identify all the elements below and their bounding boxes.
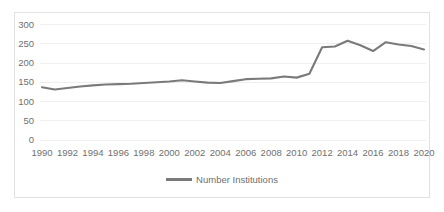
- y-axis-tick-label: 300: [8, 20, 34, 30]
- x-axis-tick-label: 2016: [361, 148, 385, 158]
- x-axis-tick-label: 2006: [234, 148, 258, 158]
- legend-entry-label: Number Institutions: [196, 174, 278, 185]
- legend-color-swatch: [166, 178, 192, 181]
- gridlines-group: [40, 25, 426, 141]
- chart-legend: Number Institutions: [0, 174, 444, 185]
- x-axis-tick-label: 2002: [183, 148, 207, 158]
- x-axis-tick-label: 2018: [387, 148, 411, 158]
- y-axis-tick-label: 200: [8, 58, 34, 68]
- y-axis-tick-label: 150: [8, 77, 34, 87]
- x-axis-tick-label: 2012: [310, 148, 334, 158]
- x-axis-tick-label: 2004: [208, 148, 232, 158]
- y-axis-tick-label: 50: [8, 116, 34, 126]
- x-axis-tick-label: 2000: [157, 148, 181, 158]
- x-axis-tick-label: 2008: [259, 148, 283, 158]
- x-axis-tick-label: 2014: [336, 148, 360, 158]
- chart-container: 050100150200250300 199019921994199619982…: [0, 0, 444, 212]
- y-axis-tick-label: 100: [8, 97, 34, 107]
- x-axis-tick-label: 2010: [285, 148, 309, 158]
- x-axis-tick-label: 1998: [132, 148, 156, 158]
- x-axis-tick-label: 1992: [55, 148, 79, 158]
- x-axis-tick-label: 2020: [412, 148, 436, 158]
- x-axis-tick-label: 1994: [81, 148, 105, 158]
- x-axis-tick-label: 1996: [106, 148, 130, 158]
- y-axis-tick-label: 250: [8, 39, 34, 49]
- y-axis-tick-label: 0: [8, 135, 34, 145]
- x-axis-tick-label: 1990: [30, 148, 54, 158]
